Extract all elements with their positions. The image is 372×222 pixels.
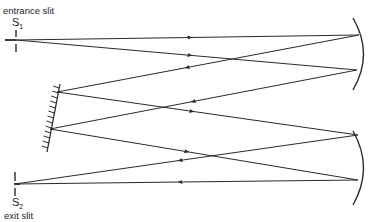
ray-mirror2-exit-lower xyxy=(15,180,358,184)
spectrometer-diagram: entrance slit S1 S2 exit slit xyxy=(0,0,372,222)
diffraction-grating xyxy=(42,84,60,152)
entrance-slit xyxy=(5,30,16,52)
ray-entrance-top xyxy=(16,35,359,40)
ray-entrance-bottom xyxy=(16,40,357,70)
collimating-mirror xyxy=(353,18,364,90)
s2-label: S2 xyxy=(12,196,23,210)
ray-mirror1-grating-upper xyxy=(57,35,359,92)
s1-label: S1 xyxy=(12,16,23,30)
ray-mirror1-grating-lower xyxy=(50,70,357,129)
entrance-slit-label: entrance slit xyxy=(3,5,55,16)
light-rays xyxy=(15,35,359,184)
ray-mirror2-exit-upper xyxy=(15,135,358,184)
exit-slit-label: exit slit xyxy=(4,210,33,221)
focusing-mirror xyxy=(353,131,364,205)
